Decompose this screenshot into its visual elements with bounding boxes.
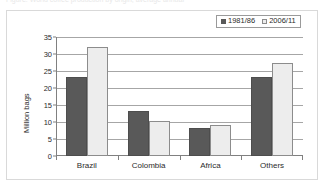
chart-frame: 1981/86 2006/11 Million bags 05101520253… — [6, 10, 318, 180]
legend-item-series-1: 1981/86 — [221, 17, 255, 25]
cut-off-caption: Figure: World coffee production by origi… — [0, 0, 325, 9]
bar-group-others — [241, 37, 303, 156]
bar-brazil-series-1 — [66, 77, 87, 156]
x-axis-tick-mark — [302, 156, 303, 160]
x-axis-tick-mark — [180, 156, 181, 160]
legend-label-series-1: 1981/86 — [228, 17, 255, 25]
chart-legend: 1981/86 2006/11 — [216, 15, 301, 28]
x-axis-labels: BrazilColombiaAfricaOthers — [56, 161, 303, 170]
bar-groups — [56, 37, 303, 156]
x-axis-tick-mark — [241, 156, 242, 160]
x-axis-label-colombia: Colombia — [118, 161, 180, 170]
y-axis-tick-label: 35 — [44, 33, 52, 42]
y-axis-tick-label: 20 — [44, 84, 52, 93]
y-axis-tick-label: 0 — [48, 152, 52, 161]
y-axis-tick-label: 25 — [44, 67, 52, 76]
y-axis-tick-label: 15 — [44, 101, 52, 110]
bar-colombia-series-1 — [128, 111, 149, 156]
x-axis-label-others: Others — [241, 161, 303, 170]
y-axis-title: Million bags — [13, 55, 25, 135]
legend-swatch-filled-square-icon — [221, 19, 226, 24]
x-axis-tick-mark — [118, 156, 119, 160]
x-axis-tick-mark — [56, 156, 57, 160]
bar-colombia-series-2 — [149, 121, 170, 156]
bar-others-series-2 — [272, 63, 293, 156]
bar-group-africa — [180, 37, 242, 156]
bar-group-colombia — [118, 37, 180, 156]
x-axis-label-africa: Africa — [180, 161, 242, 170]
bar-brazil-series-2 — [87, 47, 108, 156]
legend-swatch-open-square-icon — [262, 19, 267, 24]
y-axis-tick-label: 10 — [44, 118, 52, 127]
bar-africa-series-1 — [189, 128, 210, 156]
legend-label-series-2: 2006/11 — [269, 17, 296, 25]
bar-others-series-1 — [251, 77, 272, 156]
bar-group-brazil — [56, 37, 118, 156]
x-axis-label-brazil: Brazil — [56, 161, 118, 170]
caption-text: Figure: World coffee production by origi… — [6, 0, 325, 4]
y-axis-tick-label: 5 — [48, 135, 52, 144]
legend-item-series-2: 2006/11 — [262, 17, 296, 25]
bar-africa-series-2 — [210, 125, 231, 156]
y-axis-title-text: Million bags — [22, 93, 31, 133]
y-axis-tick-label: 30 — [44, 50, 52, 59]
plot-area: 05101520253035 — [56, 37, 303, 156]
